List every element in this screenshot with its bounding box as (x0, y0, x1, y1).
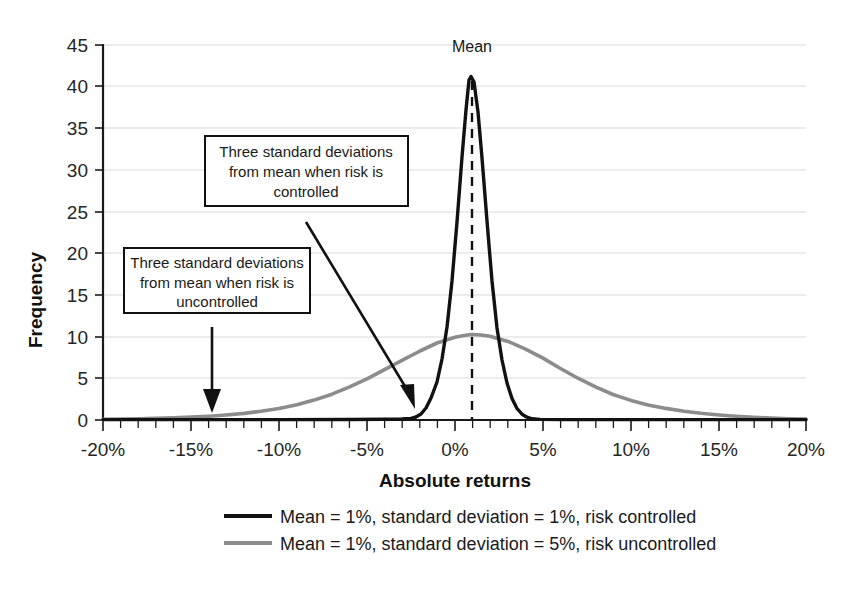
y-tick-label-20: 20 (67, 243, 88, 264)
callout-controlled-line-2: from mean when risk is (229, 163, 383, 180)
chart-figure: 45 40 35 30 25 20 15 10 5 0 (0, 0, 867, 600)
x-tick-label-10: 10% (612, 439, 650, 460)
mean-label: Mean (452, 38, 492, 55)
x-tick-label-minus10: -10% (257, 439, 301, 460)
callout-uncontrolled-line-2: from mean when risk is (140, 274, 294, 291)
y-tick-label-30: 30 (67, 160, 88, 181)
y-tick-label-15: 15 (67, 285, 88, 306)
y-tick-label-25: 25 (67, 202, 88, 223)
y-tick-label-35: 35 (67, 118, 88, 139)
x-tick-label-5: 5% (529, 439, 557, 460)
legend-label-controlled: Mean = 1%, standard deviation = 1%, risk… (280, 507, 696, 527)
x-tick-label-minus5: -5% (350, 439, 384, 460)
x-tick-label-20: 20% (787, 439, 825, 460)
x-tick-label-15: 15% (700, 439, 738, 460)
x-tick-label-0: 0% (441, 439, 469, 460)
legend-label-uncontrolled: Mean = 1%, standard deviation = 5%, risk… (280, 534, 716, 554)
callout-uncontrolled-line-3: uncontrolled (176, 293, 258, 310)
x-tick-label-minus15: -15% (169, 439, 213, 460)
callout-uncontrolled-line-1: Three standard deviations (130, 254, 303, 271)
y-tick-label-40: 40 (67, 76, 88, 97)
y-tick-label-10: 10 (67, 327, 88, 348)
x-axis-title: Absolute returns (379, 470, 531, 491)
y-tick-label-0: 0 (77, 410, 88, 431)
y-tick-label-5: 5 (77, 368, 88, 389)
y-tick-label-45: 45 (67, 35, 88, 56)
callout-controlled-line-3: controlled (273, 183, 338, 200)
x-tick-label-minus20: -20% (81, 439, 125, 460)
y-axis-title: Frequency (25, 252, 46, 349)
callout-controlled-line-1: Three standard deviations (219, 143, 392, 160)
normal-distribution-chart: 45 40 35 30 25 20 15 10 5 0 (0, 0, 867, 600)
